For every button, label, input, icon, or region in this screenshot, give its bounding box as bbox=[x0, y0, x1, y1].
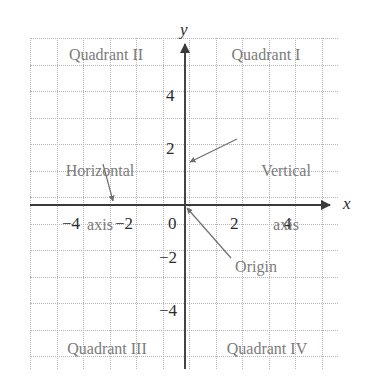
y-axis-label: y bbox=[180, 20, 188, 40]
horizontal-axis-annotation-line2: axis bbox=[38, 216, 162, 234]
horizontal-axis-annotation: Horizontal axis bbox=[38, 126, 162, 269]
y-tick-label-4: 4 bbox=[166, 86, 175, 106]
horizontal-axis-annotation-line1: Horizontal bbox=[38, 162, 162, 180]
vertical-axis-pointer-arrow bbox=[190, 139, 237, 162]
vertical-axis-annotation-line2: axis bbox=[238, 216, 334, 234]
origin-annotation: Origin bbox=[218, 258, 294, 276]
quadrant-1-label: Quadrant I bbox=[206, 46, 326, 64]
y-tick-label-2: 2 bbox=[166, 139, 175, 159]
vertical-axis-annotation-line1: Vertical bbox=[238, 162, 334, 180]
coordinate-plane-figure: y x −4 −2 0 2 4 4 2 −2 −4 Quadrant II Qu… bbox=[0, 0, 374, 387]
quadrant-3-label: Quadrant III bbox=[44, 340, 170, 358]
vertical-axis-annotation: Vertical axis bbox=[238, 126, 334, 269]
x-axis-label: x bbox=[343, 194, 351, 214]
quadrant-4-label: Quadrant IV bbox=[204, 340, 330, 358]
x-tick-label-zero: 0 bbox=[168, 214, 177, 234]
origin-pointer-arrow bbox=[187, 208, 231, 258]
y-tick-label-neg4: −4 bbox=[159, 301, 177, 321]
quadrant-2-label: Quadrant II bbox=[46, 46, 166, 64]
